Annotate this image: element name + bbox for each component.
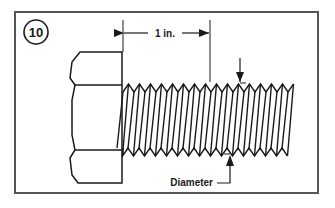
bolt-head (70, 52, 122, 183)
thread-root-line (161, 92, 167, 148)
figure-number-badge: 10 (24, 20, 48, 44)
thread-root-line (172, 92, 178, 148)
thread-root-line (139, 92, 145, 148)
figure-number: 10 (29, 25, 43, 40)
thread-root-line (216, 92, 222, 148)
thread-top-profile (123, 84, 294, 92)
thread-root-line (271, 92, 277, 148)
length-label: 1 in. (155, 28, 175, 39)
thread-root-line (282, 92, 288, 148)
thread-bottom-profile (123, 148, 288, 156)
thread-root-line (227, 92, 233, 148)
thread-root-line (249, 92, 255, 148)
length-dimension: 1 in. (123, 20, 210, 82)
thread-root-line (150, 92, 156, 148)
thread-root-line (183, 92, 189, 148)
bolt-diagram: 10 1 in. Diameter (0, 0, 335, 208)
diameter-label: Diameter (170, 177, 213, 188)
thread-root-line (194, 92, 200, 148)
thread-root-line (238, 92, 244, 148)
thread-root-line (128, 92, 134, 148)
bolt-head-outline (70, 52, 122, 183)
bolt-thread (117, 84, 294, 156)
thread-root-line (205, 92, 211, 148)
thread-root-line (260, 92, 266, 148)
